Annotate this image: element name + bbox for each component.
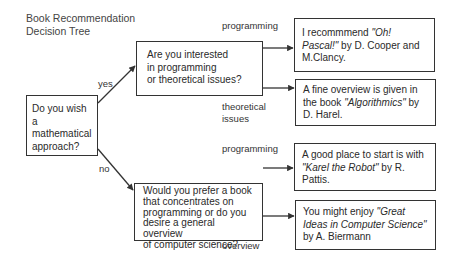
edge-label-no: no [99, 163, 110, 175]
root-line-1: Do you wish a [32, 103, 92, 128]
leaf-karel-book-title: "Karel the Robot" [302, 162, 379, 173]
edge-label-yes: yes [98, 78, 113, 90]
leaf-great-ideas: You might enjoy "Great Ideas in Computer… [295, 200, 436, 250]
leaf-karel-the-robot: A good place to start is with "Karel the… [294, 143, 436, 191]
edge-label-programming-top: programming [222, 20, 278, 32]
edge-label-theoretical-line2: issues [222, 113, 266, 125]
edge-label-theoretical-line1: theoretical [222, 101, 266, 113]
root-line-3: approach? [32, 141, 92, 154]
leaf-algorithmics-book-title: "Algorithmics" [344, 97, 406, 108]
preference-line-4: desire a general overview [143, 218, 254, 240]
edge-label-overview: overview [222, 240, 260, 252]
interest-line-2: in programming [147, 62, 252, 75]
root-line-2: mathematical [32, 128, 92, 141]
root-question-box: Do you wish a mathematical approach? [26, 95, 98, 156]
interest-line-1: Are you interested [147, 49, 252, 62]
preference-question-box: Would you prefer a book that concentrate… [134, 183, 263, 241]
interest-question-box: Are you interested in programming or the… [136, 41, 263, 96]
leaf-karel-prefix: A good place to start is with [302, 149, 424, 160]
preference-line-2: that concentrates on [143, 197, 254, 208]
leaf-great-ideas-prefix: You might enjoy [303, 206, 377, 217]
leaf-oh-pascal: I recommmend "Oh! Pascal!" by D. Cooper … [294, 18, 435, 72]
leaf-great-ideas-suffix: by A. Biermann [303, 231, 371, 242]
leaf-pascal-prefix: I recommmend [302, 27, 371, 38]
edge-label-theoretical: theoretical issues [222, 101, 266, 125]
interest-line-3: or theoretical issues? [147, 74, 252, 87]
leaf-algorithmics: A fine overview is given in the book "Al… [295, 79, 436, 126]
edge-label-programming-bottom: programming [222, 143, 278, 155]
